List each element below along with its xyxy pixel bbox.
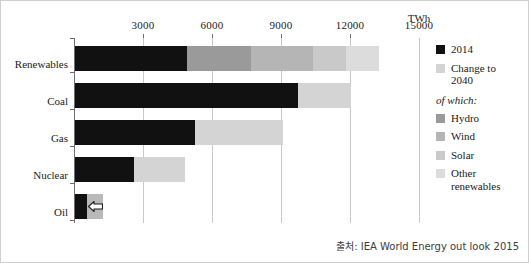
gridline-15000 — [419, 38, 420, 223]
bar-segment-coal-change — [298, 83, 351, 108]
tick-mark-9000 — [281, 34, 282, 38]
plot-area: 3000 6000 9000 12000 15000 — [74, 38, 419, 223]
bar-renewables[interactable] — [75, 46, 379, 71]
legend-swatch-hydro — [436, 114, 445, 123]
legend-item-solar[interactable]: Solar — [436, 149, 526, 162]
legend-item-2014[interactable]: 2014 — [436, 43, 526, 56]
bar-segment-renewables-wind — [251, 46, 313, 71]
legend-label-2014: 2014 — [451, 43, 473, 56]
legend-swatch-2014 — [436, 45, 445, 54]
legend-swatch-wind — [436, 132, 445, 141]
bar-segment-gas-change — [195, 120, 283, 145]
row-tick-0 — [70, 38, 74, 39]
bar-segment-oil-change — [87, 194, 103, 219]
row-tick-3 — [70, 146, 74, 147]
chart-legend: 2014 Change to 2040 of which: Hydro Wind… — [436, 43, 526, 198]
tick-mark-3000 — [143, 34, 144, 38]
tick-mark-6000 — [212, 34, 213, 38]
bar-segment-renewables-hydro — [187, 46, 251, 71]
legend-item-other-renewables[interactable]: Other renewables — [436, 167, 526, 192]
legend-label-hydro: Hydro — [451, 112, 479, 125]
bar-gas[interactable] — [75, 120, 283, 145]
bar-segment-gas-2014 — [75, 120, 195, 145]
tick-label-9000: 9000 — [270, 19, 293, 31]
row-tick-2 — [70, 109, 74, 110]
legend-swatch-other-renewables — [436, 169, 445, 178]
legend-item-hydro[interactable]: Hydro — [436, 112, 526, 125]
chart-figure: TWh 3000 6000 9000 12000 15000 — [0, 0, 529, 263]
row-tick-1 — [70, 72, 74, 73]
tick-label-6000: 6000 — [201, 19, 224, 31]
legend-note-of-which: of which: — [436, 94, 526, 106]
bar-segment-coal-2014 — [75, 83, 298, 108]
source-note: 출처: IEA World Energy out look 2015 — [336, 238, 519, 253]
category-label-renewables: Renewables — [2, 58, 68, 70]
bar-segment-renewables-solar — [313, 46, 346, 71]
legend-label-other-renewables: Other renewables — [451, 167, 517, 192]
legend-label-change-to-2040: Change to 2040 — [451, 62, 515, 87]
legend-item-wind[interactable]: Wind — [436, 130, 526, 143]
legend-swatch-solar — [436, 151, 445, 160]
legend-label-wind: Wind — [451, 130, 475, 143]
legend-item-change-to-2040[interactable]: Change to 2040 — [436, 62, 526, 87]
tick-label-12000: 12000 — [336, 19, 365, 31]
row-tick-5 — [70, 220, 74, 221]
bar-segment-renewables-2014 — [75, 46, 187, 71]
category-label-nuclear: Nuclear — [2, 169, 68, 181]
bar-segment-nuclear-2014 — [75, 157, 134, 182]
bar-segment-oil-2014 — [75, 194, 87, 219]
row-tick-4 — [70, 183, 74, 184]
legend-label-solar: Solar — [451, 149, 474, 162]
category-label-gas: Gas — [2, 132, 68, 144]
bar-segment-nuclear-change — [134, 157, 185, 182]
category-label-oil: Oil — [2, 206, 68, 218]
bar-oil[interactable] — [75, 194, 103, 219]
category-label-coal: Coal — [2, 95, 68, 107]
bar-segment-renewables-other — [346, 46, 379, 71]
tick-mark-12000 — [350, 34, 351, 38]
legend-swatch-change-to-2040 — [436, 64, 445, 73]
bar-nuclear[interactable] — [75, 157, 185, 182]
bar-coal[interactable] — [75, 83, 351, 108]
tick-label-3000: 3000 — [132, 19, 155, 31]
tick-label-15000: 15000 — [405, 19, 434, 31]
